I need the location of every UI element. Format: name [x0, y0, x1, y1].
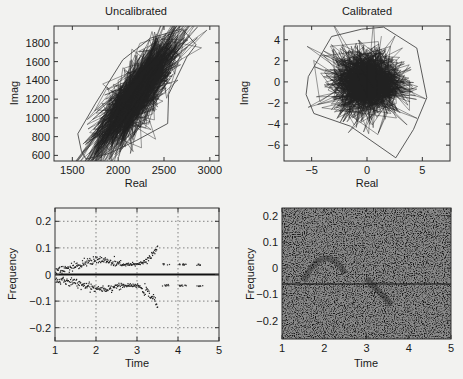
panel-title: Calibrated [342, 5, 392, 17]
panel-frequency-tracks: 12345−0.2−0.100.10.2 Time Frequency [6, 208, 222, 369]
x-tick-label: 2 [321, 342, 327, 354]
frequency-tracks [55, 246, 203, 309]
y-tick-label: 0 [45, 269, 51, 281]
x-tick-label: 5 [419, 164, 425, 176]
x-tick-label: 3 [134, 344, 140, 356]
y-tick-label: −2 [267, 97, 280, 109]
y-tick-label: 0.2 [263, 210, 278, 222]
grid-lines [55, 208, 219, 341]
panel-uncalibrated: Uncalibrated 150020002500300060080010001… [8, 0, 222, 201]
y-tick-label: 0.2 [36, 215, 51, 227]
x-tick-label: 3 [363, 342, 369, 354]
x-tick-label: 2500 [152, 164, 176, 176]
x-tick-label: 4 [175, 344, 181, 356]
panel-frequency-image: 12345−0.2−0.100.10.2 Time Frequency [244, 208, 454, 369]
x-tick-label: −5 [305, 164, 318, 176]
y-axis-label: Imag [8, 81, 20, 105]
y-tick-label: 800 [32, 131, 50, 143]
y-tick-label: −0.1 [256, 288, 278, 300]
y-axis-label: Imag [238, 81, 250, 105]
y-tick-label: 1400 [26, 74, 50, 86]
x-axis-label: Real [356, 177, 379, 189]
y-tick-label: 0.1 [36, 242, 51, 254]
y-tick-label: −6 [267, 139, 280, 151]
x-tick-label: 2000 [106, 164, 130, 176]
panel-calibrated: Calibrated −505−6−4−2024 Real Imag [238, 5, 450, 189]
y-tick-label: −0.2 [256, 315, 278, 327]
x-tick-label: 1 [279, 342, 285, 354]
y-tick-label: 600 [32, 149, 50, 161]
y-tick-label: 0.1 [263, 236, 278, 248]
x-tick-label: 2 [93, 344, 99, 356]
y-axis-label: Frequency [6, 248, 18, 300]
y-tick-label: −0.2 [29, 322, 51, 334]
y-axis-label: Frequency [244, 248, 256, 300]
scatter-cloud [306, 21, 427, 157]
x-tick-label: 3000 [198, 164, 222, 176]
x-axis-label: Real [125, 177, 148, 189]
x-tick-label: 1500 [60, 164, 84, 176]
y-tick-label: 1200 [26, 93, 50, 105]
y-tick-label: 0 [272, 262, 278, 274]
y-tick-label: 2 [274, 55, 280, 67]
y-tick-label: −0.1 [29, 295, 51, 307]
x-tick-label: 5 [448, 342, 454, 354]
figure: Uncalibrated 150020002500300060080010001… [0, 0, 463, 379]
y-tick-label: −4 [267, 118, 280, 130]
x-tick-label: 1 [52, 344, 58, 356]
panel-title: Uncalibrated [105, 5, 167, 17]
x-tick-label: 4 [406, 342, 412, 354]
x-tick-label: 5 [216, 344, 222, 356]
x-axis-label: Time [354, 357, 378, 369]
y-tick-label: 1600 [26, 56, 50, 68]
y-tick-label: 1800 [26, 37, 50, 49]
y-tick-label: 4 [274, 34, 280, 46]
x-axis-label: Time [125, 357, 149, 369]
x-tick-label: 0 [364, 164, 370, 176]
y-tick-label: 1000 [26, 112, 50, 124]
y-tick-label: 0 [274, 76, 280, 88]
